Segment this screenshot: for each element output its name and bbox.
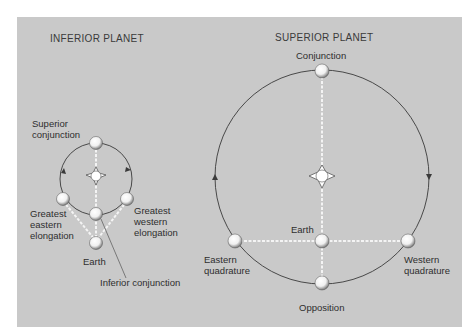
- label-eastern-quadrature: Eastern: [204, 254, 237, 265]
- label-greatest-western-elongation: western: [134, 216, 167, 227]
- planet-greatest-eastern-elongation: [57, 193, 70, 206]
- label-inferior-conjunction: Inferior conjunction: [100, 277, 180, 288]
- label-greatest-eastern-elongation: eastern: [30, 219, 62, 230]
- earth-inferior: [90, 237, 103, 250]
- label-earth-inferior: Earth: [83, 256, 106, 267]
- label-western-quadrature: quadrature: [404, 265, 450, 276]
- label-superior-conjunction: Superior: [32, 118, 68, 129]
- orbit-arrow-icon: [426, 174, 432, 180]
- label-greatest-eastern-elongation: Greatest: [30, 208, 66, 219]
- superior-planet-diagram: [212, 64, 432, 290]
- sun-icon: [86, 167, 106, 185]
- planet-superior-conjunction: [90, 137, 103, 150]
- planet-inferior-conjunction: [90, 208, 103, 221]
- label-superior-conjunction: conjunction: [32, 129, 80, 140]
- label-conjunction: Conjunction: [296, 50, 346, 61]
- planet-conjunction: [315, 64, 329, 78]
- planet-western-quadrature: [401, 234, 415, 248]
- label-greatest-eastern-elongation: elongation: [30, 230, 74, 241]
- sun-icon: [309, 165, 335, 188]
- inferior-title: INFERIOR PLANET: [50, 33, 144, 44]
- label-earth-superior: Earth: [291, 224, 314, 235]
- inferior-conjunction-pointer: [101, 219, 126, 278]
- label-opposition: Opposition: [299, 302, 344, 313]
- sightlines: [63, 145, 127, 241]
- planet-eastern-quadrature: [228, 234, 242, 248]
- planet-greatest-western-elongation: [121, 193, 134, 206]
- orbit-diagram: [0, 0, 475, 331]
- label-eastern-quadrature: quadrature: [204, 265, 250, 276]
- orbit-arrow-icon: [212, 174, 218, 180]
- planet-opposition: [315, 276, 329, 290]
- superior-title: SUPERIOR PLANET: [275, 32, 373, 43]
- label-greatest-western-elongation: elongation: [134, 227, 178, 238]
- label-greatest-western-elongation: Greatest: [134, 205, 170, 216]
- label-western-quadrature: Western: [404, 254, 439, 265]
- earth-superior: [315, 234, 329, 248]
